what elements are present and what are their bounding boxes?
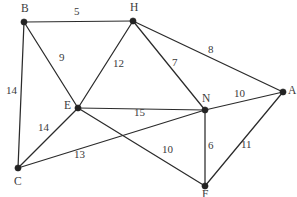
edge-weight-h-a: 8	[208, 44, 214, 55]
graph-node-label-f: F	[202, 189, 208, 197]
graph-edge-h-e	[78, 21, 133, 108]
graph-node-label-a: A	[288, 85, 296, 97]
graph-node-h[interactable]	[130, 18, 136, 24]
graph-node-c[interactable]	[15, 165, 21, 171]
graph-edge-c-n	[18, 110, 205, 168]
edge-weight-e-f: 10	[162, 144, 173, 155]
edge-weight-h-e: 12	[113, 58, 124, 69]
graph-edge-b-c	[18, 22, 24, 168]
graph-node-a[interactable]	[280, 89, 286, 95]
graph-edge-h-a	[133, 21, 283, 92]
edges-group	[18, 21, 283, 186]
edge-weight-e-n: 15	[134, 107, 145, 118]
edge-weight-e-c: 14	[38, 122, 49, 133]
graph-node-label-e: E	[64, 100, 71, 112]
edge-weight-b-c: 14	[6, 85, 17, 96]
edge-weight-c-n: 13	[74, 149, 85, 160]
edge-weight-b-e: 9	[59, 52, 65, 63]
graph-diagram-canvas: BHAENCF 514912781514101310611	[0, 0, 297, 197]
graph-edge-b-e	[24, 22, 78, 108]
graph-svg	[0, 0, 297, 197]
edge-weight-b-h: 5	[74, 6, 80, 17]
graph-node-e[interactable]	[75, 105, 81, 111]
edge-weight-n-a: 10	[234, 88, 245, 99]
graph-edge-h-n	[133, 21, 205, 110]
graph-node-label-c: C	[14, 176, 22, 188]
graph-node-label-n: N	[202, 93, 210, 105]
edge-weight-f-a: 11	[241, 139, 252, 150]
graph-node-n[interactable]	[202, 107, 208, 113]
edge-weight-h-n: 7	[172, 57, 178, 68]
graph-node-label-h: H	[130, 2, 138, 14]
graph-edge-e-f	[78, 108, 205, 186]
graph-node-b[interactable]	[21, 19, 27, 25]
graph-node-label-b: B	[21, 3, 29, 15]
edge-weight-n-f: 6	[208, 140, 214, 151]
graph-edge-b-h	[24, 21, 133, 22]
